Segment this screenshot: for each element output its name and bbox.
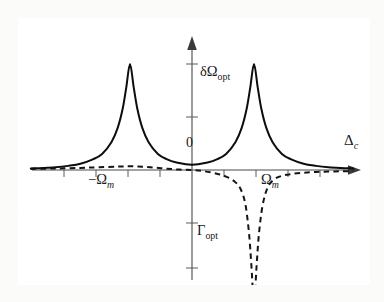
y-axis-arrowhead <box>187 36 197 50</box>
curve-label-gamma-opt: Γopt <box>197 223 218 238</box>
origin-label-zero: 0 <box>186 136 193 150</box>
subscript-opt: opt <box>218 71 231 82</box>
subscript-opt: opt <box>205 230 218 241</box>
x-tick-label-positive-omega-m: Ωm <box>261 172 279 187</box>
x-tick-label-negative-omega-m: −Ωm <box>88 172 114 187</box>
x-axis-arrowhead <box>348 165 361 175</box>
figure-container: δΩopt Γopt Δc 0 −Ωm Ωm <box>0 0 384 302</box>
y-axis <box>187 36 197 280</box>
subscript-c: c <box>354 140 359 151</box>
subscript-m: m <box>272 179 279 190</box>
subscript-m: m <box>107 179 114 190</box>
x-axis-label-delta-c: Δc <box>344 133 358 148</box>
curve-label-delta-omega-opt: δΩopt <box>200 64 230 79</box>
plot-canvas <box>18 18 370 285</box>
